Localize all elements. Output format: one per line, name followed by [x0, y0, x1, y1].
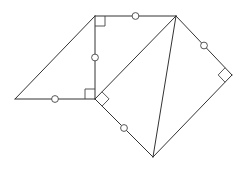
- congruence-circle-icon: [132, 13, 139, 20]
- geometry-figure: [0, 0, 246, 171]
- congruence-circle-icon: [201, 42, 208, 49]
- segment-bf: [153, 16, 176, 157]
- right-angle-icon: [85, 89, 95, 99]
- right-angle-icon: [218, 68, 225, 82]
- congruence-marks: [52, 13, 208, 132]
- congruence-circle-icon: [52, 96, 59, 103]
- segment-db: [95, 16, 176, 99]
- congruence-circle-icon: [92, 54, 99, 61]
- diagram-canvas: [0, 0, 246, 171]
- segment-ca: [15, 16, 95, 99]
- right-angle-icon: [102, 92, 109, 106]
- congruence-circle-icon: [121, 125, 128, 132]
- segments-group: [15, 16, 232, 157]
- right-angle-markers: [85, 16, 225, 106]
- right-angle-icon: [95, 16, 105, 26]
